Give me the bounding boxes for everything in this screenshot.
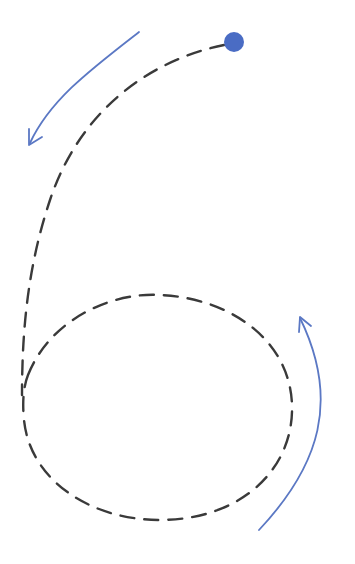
background (0, 0, 355, 564)
start-dot-icon (224, 32, 244, 52)
tracing-guide-canvas (0, 0, 355, 564)
